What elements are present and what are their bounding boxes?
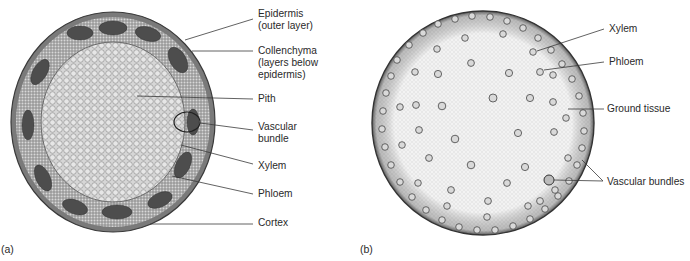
label-cortex: Cortex xyxy=(258,217,288,229)
label-phloem-b: Phloem xyxy=(609,56,644,68)
panel-label-b: (b) xyxy=(360,243,373,255)
label-collenchyma: Collenchyma (layers below epidermis) xyxy=(258,45,318,81)
diagram-canvas xyxy=(0,0,690,261)
label-vascular-bundle: Vascular bundle xyxy=(258,121,297,145)
label-xylem-a: Xylem xyxy=(258,160,286,172)
dicot-stem-section xyxy=(11,12,215,232)
label-epidermis: Epidermis (outer layer) xyxy=(258,8,313,32)
highlighted-vascular-bundle xyxy=(544,175,554,185)
label-phloem-a: Phloem xyxy=(258,188,293,200)
label-xylem-b: Xylem xyxy=(609,23,637,35)
label-ground-tissue: Ground tissue xyxy=(607,103,670,115)
label-vascular-bundles: Vascular bundles xyxy=(607,176,684,188)
panel-label-a: (a) xyxy=(1,243,14,255)
pith-region xyxy=(41,42,185,202)
label-pith: Pith xyxy=(258,93,276,105)
monocot-stem-section xyxy=(372,11,594,235)
